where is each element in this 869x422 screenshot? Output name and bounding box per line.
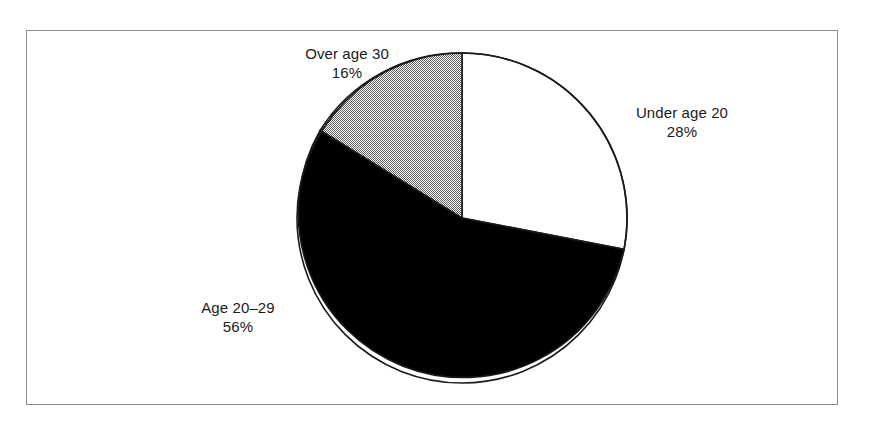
pie-label-over-age-30: Over age 30 16%: [281, 44, 413, 82]
pie-label-age-20-29: Age 20–29 56%: [172, 298, 304, 336]
pie-chart-svg: [0, 0, 869, 422]
pie-label-age-20-29-value: 56%: [172, 317, 304, 336]
pie-label-under-age-20-value: 28%: [616, 122, 748, 141]
pie-label-under-age-20: Under age 20 28%: [616, 103, 748, 141]
pie-label-over-age-30-value: 16%: [281, 63, 413, 82]
pie-label-over-age-30-name: Over age 30: [281, 44, 413, 63]
pie-chart-figure: Over age 30 16% Under age 20 28% Age 20–…: [0, 0, 869, 422]
pie-slice-under-age-20[interactable]: [462, 53, 627, 249]
pie-chart-plot-area: Over age 30 16% Under age 20 28% Age 20–…: [0, 0, 869, 422]
pie-label-under-age-20-name: Under age 20: [616, 103, 748, 122]
pie-label-age-20-29-name: Age 20–29: [172, 298, 304, 317]
